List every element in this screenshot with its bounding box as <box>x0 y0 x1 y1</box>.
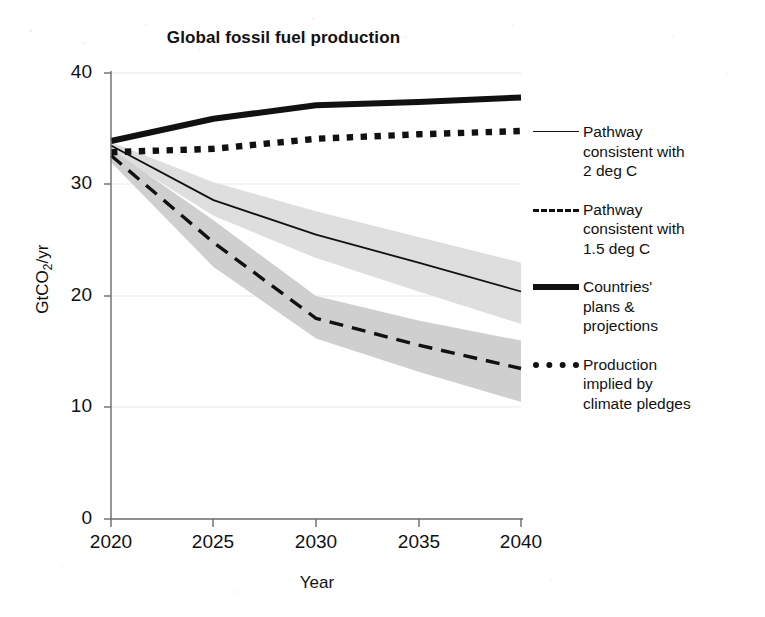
legend-item-climate-pledges[interactable]: Production implied by climate pledges <box>533 355 761 414</box>
uncertainty-bands <box>111 142 521 402</box>
y-tick-label-30: 30 <box>40 172 92 194</box>
legend-item-2deg[interactable]: Pathway consistent with 2 deg C <box>533 122 761 181</box>
series-line-climate-pledges <box>111 131 521 152</box>
x-tick-label-2035: 2035 <box>383 531 455 553</box>
x-tick-label-2025: 2025 <box>177 531 249 553</box>
dotted-line-icon <box>533 355 579 377</box>
dashed-line-icon <box>533 200 579 222</box>
y-tick-label-40: 40 <box>40 61 92 83</box>
x-tick-label-2030: 2030 <box>280 531 352 553</box>
y-tick-label-10: 10 <box>40 395 92 417</box>
y-tick-label-0: 0 <box>40 507 92 529</box>
y-axis-title-subscript: 2 <box>41 264 55 271</box>
x-tick-label-2040: 2040 <box>485 531 557 553</box>
legend-item-label: Countries' plans & projections <box>583 277 658 336</box>
legend-item-1p5deg[interactable]: Pathway consistent with 1.5 deg C <box>533 200 761 259</box>
y-axis-title: GtCO2/yr <box>33 199 55 359</box>
x-axis-title: Year <box>262 573 372 593</box>
legend-item-label: Pathway consistent with 2 deg C <box>583 122 685 181</box>
legend-item-label: Production implied by climate pledges <box>583 355 691 414</box>
chart-legend: Pathway consistent with 2 deg C Pathway … <box>533 122 761 432</box>
solid-thin-line-icon <box>533 122 579 144</box>
bold-solid-line-icon <box>533 277 579 299</box>
y-axis-title-unit: /yr <box>33 245 52 264</box>
y-axis-title-text: GtCO <box>33 270 52 313</box>
x-tick-label-2020: 2020 <box>75 531 147 553</box>
legend-item-countries-plans[interactable]: Countries' plans & projections <box>533 277 761 336</box>
chart-figure: Global fossil fuel production <box>0 0 765 617</box>
legend-item-label: Pathway consistent with 1.5 deg C <box>583 200 685 259</box>
